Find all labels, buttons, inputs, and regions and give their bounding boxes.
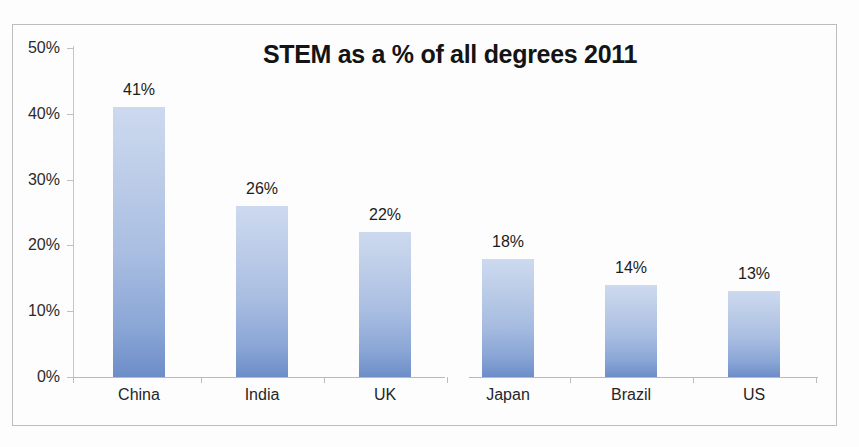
x-axis-tick — [693, 377, 694, 383]
x-axis-category-label: Japan — [453, 386, 563, 404]
x-axis-category-label: US — [699, 386, 809, 404]
x-axis-tick — [73, 377, 74, 383]
y-axis-tick-label: 50% — [14, 39, 60, 57]
x-axis-tick — [324, 377, 325, 383]
bar-brazil — [605, 285, 657, 377]
y-axis-tick — [67, 114, 74, 115]
bar-us — [728, 291, 780, 377]
y-axis-tick-label: 30% — [14, 171, 60, 189]
bar-china — [113, 107, 165, 377]
bar-value-label: 13% — [714, 265, 794, 283]
x-axis-tick — [570, 377, 571, 383]
y-axis-line — [73, 46, 74, 378]
x-axis-category-label: UK — [330, 386, 440, 404]
bar-value-label: 14% — [591, 259, 671, 277]
y-axis-tick-label: 10% — [14, 302, 60, 320]
y-axis-tick — [67, 245, 74, 246]
y-axis-tick-label: 40% — [14, 105, 60, 123]
x-axis-tick — [447, 377, 448, 383]
chart-page: STEM as a % of all degrees 2011 0%10%20%… — [0, 0, 859, 447]
x-axis-category-label: Brazil — [576, 386, 686, 404]
x-axis-tick — [816, 377, 817, 383]
bar-value-label: 41% — [99, 81, 179, 99]
y-axis-tick — [67, 180, 74, 181]
x-axis-category-label: China — [84, 386, 194, 404]
bar-value-label: 22% — [345, 206, 425, 224]
bar-value-label: 18% — [468, 233, 548, 251]
x-axis-tick — [201, 377, 202, 383]
x-axis-scan-gap — [445, 376, 469, 379]
y-axis-tick — [67, 311, 74, 312]
y-axis-tick-label: 20% — [14, 236, 60, 254]
plot-area: 0%10%20%30%40%50%41%China26%India22%UK18… — [0, 0, 859, 447]
bar-value-label: 26% — [222, 180, 302, 198]
bar-india — [236, 206, 288, 377]
y-axis-tick-label: 0% — [14, 368, 60, 386]
y-axis-tick — [67, 48, 74, 49]
bar-japan — [482, 259, 534, 377]
bar-uk — [359, 232, 411, 377]
x-axis-category-label: India — [207, 386, 317, 404]
